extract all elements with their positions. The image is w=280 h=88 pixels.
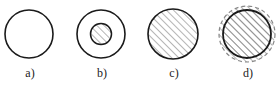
label-d: d) — [233, 66, 263, 81]
figure-c-hatched-circle — [148, 9, 198, 59]
label-c: c) — [159, 66, 189, 81]
figure-a-empty-circle — [5, 10, 53, 58]
label-b: b) — [87, 66, 117, 81]
label-a: a) — [15, 66, 45, 81]
figure-d-hatched-ring-circle — [219, 6, 275, 62]
figure-b-core-circle — [77, 10, 125, 58]
